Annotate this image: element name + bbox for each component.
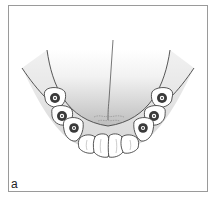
tooth-lateral-right [121,135,139,153]
dental-arch-diagram [0,0,215,199]
implant-left-1 [44,88,65,108]
panel-label: a [11,178,18,190]
implant-right-1 [151,88,172,108]
anterior-teeth [78,134,138,157]
tooth-central-left [93,134,109,157]
